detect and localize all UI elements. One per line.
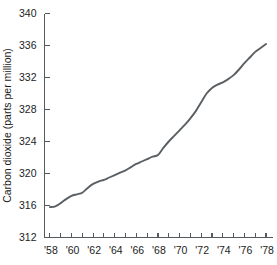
y-axis-ticks bbox=[45, 14, 50, 238]
y-axis-title: Carbon dioxide (parts per million) bbox=[1, 48, 13, 203]
y-tick-label: 332 bbox=[19, 71, 37, 83]
x-tick-label: '60 bbox=[66, 244, 80, 256]
data-series-line bbox=[50, 44, 266, 207]
y-axis-group: 312316320324328332336340 bbox=[19, 7, 50, 243]
x-axis-ticks bbox=[50, 233, 266, 238]
x-tick-label: '62 bbox=[87, 244, 101, 256]
x-tick-label: '78 bbox=[260, 244, 274, 256]
x-tick-label: '66 bbox=[131, 244, 145, 256]
x-axis-tick-labels: '58'60'62'64'66'68'70'72'74'76'78 bbox=[44, 244, 274, 256]
x-tick-label: '70 bbox=[174, 244, 188, 256]
y-axis-tick-labels: 312316320324328332336340 bbox=[19, 7, 37, 243]
plot-area bbox=[50, 44, 266, 207]
x-tick-label: '58 bbox=[44, 244, 58, 256]
y-tick-label: 312 bbox=[19, 231, 37, 243]
y-tick-label: 328 bbox=[19, 103, 37, 115]
x-tick-label: '64 bbox=[109, 244, 123, 256]
x-tick-label: '72 bbox=[195, 244, 209, 256]
y-tick-label: 316 bbox=[19, 199, 37, 211]
x-tick-label: '76 bbox=[239, 244, 253, 256]
x-tick-label: '74 bbox=[217, 244, 231, 256]
y-tick-label: 324 bbox=[19, 135, 37, 147]
y-tick-label: 340 bbox=[19, 7, 37, 19]
x-tick-label: '68 bbox=[152, 244, 166, 256]
y-tick-label: 336 bbox=[19, 39, 37, 51]
co2-line-chart: 312316320324328332336340 '58'60'62'64'66… bbox=[0, 0, 277, 265]
chart-canvas: 312316320324328332336340 '58'60'62'64'66… bbox=[0, 0, 277, 265]
x-axis-group: '58'60'62'64'66'68'70'72'74'76'78 bbox=[44, 233, 274, 256]
y-tick-label: 320 bbox=[19, 167, 37, 179]
